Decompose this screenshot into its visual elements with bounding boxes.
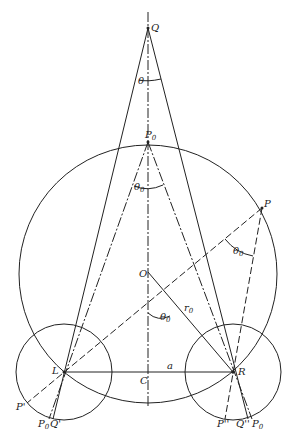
line-P0-to-P0dprime [148,142,252,419]
label-C: C [140,375,148,386]
label-P0-dprime: P0 [251,418,264,431]
point-P0 [147,141,150,144]
point-Q [147,27,150,30]
line-Q-to-Qprime [53,28,148,419]
point-R [231,370,235,374]
label-P-prime: P' [15,401,25,412]
label-r0: r0 [184,302,194,315]
label-theta0-P0: θ0 [134,181,145,194]
geometry-diagram: Q P0 P O L R C P' P0 Q' P'' Q'' P0 θ θ0 … [0,0,299,448]
label-R: R [237,366,246,377]
label-theta0-P: θ0 [233,245,244,258]
label-theta0-O: θ0 [160,311,171,324]
label-P0-prime: P0 [37,418,50,431]
figure-caption [2,440,299,448]
line-Q-to-Qdprime [148,28,248,419]
line-P-to-Pprime [27,208,262,403]
label-Q-dprime: Q'' [236,418,250,429]
label-theta-Q: θ [138,75,144,86]
label-Q: Q [151,22,159,33]
label-L: L [51,365,59,376]
label-P: P [263,198,271,209]
label-P-dprime: P'' [216,418,229,429]
line-P-to-Pdprime [225,208,262,419]
label-a: a [167,360,173,371]
label-P0: P0 [144,129,157,142]
label-Q-prime: Q' [50,418,61,429]
label-O: O [139,268,147,279]
point-L [63,371,66,374]
radius-line-OR [148,272,233,372]
